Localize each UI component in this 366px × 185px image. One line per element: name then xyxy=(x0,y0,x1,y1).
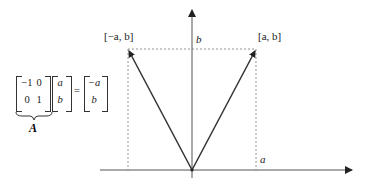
label-right-point: [a, b] xyxy=(258,30,281,42)
origin-dot xyxy=(190,168,193,171)
result-neg-a: −a xyxy=(87,77,101,88)
matrix-a-12: 0 xyxy=(34,77,44,88)
vector-left xyxy=(129,51,192,170)
label-y-tick-b: b xyxy=(196,33,202,45)
equals-sign: = xyxy=(73,85,81,96)
label-left-point: [−a, b] xyxy=(104,30,133,42)
vector-a: a xyxy=(55,77,65,88)
result-right-bracket xyxy=(102,76,108,112)
matrix-a-11: −1 xyxy=(20,77,34,88)
label-x-tick-a: a xyxy=(260,153,266,165)
underbrace xyxy=(14,111,54,121)
matrix-a-21: 0 xyxy=(20,94,34,105)
vector-right xyxy=(192,51,255,170)
matrix-a-22: 1 xyxy=(34,94,44,105)
vector-right-bracket xyxy=(66,76,72,112)
vector-b: b xyxy=(55,94,65,105)
matrix-a-right-bracket xyxy=(45,76,51,112)
result-b: b xyxy=(87,94,101,105)
matrix-label-a: A xyxy=(29,121,37,136)
